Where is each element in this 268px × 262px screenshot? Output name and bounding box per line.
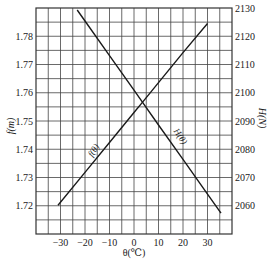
x-tick-label: 10 [154, 237, 164, 248]
y2-tick-label: 2080 [235, 144, 255, 155]
y-tick-label: 1.72 [16, 200, 34, 211]
y-tick-label: 1.77 [16, 59, 34, 70]
x-tick-label: −20 [77, 237, 93, 248]
y2-tick-label: 2100 [235, 87, 255, 98]
h-curve-label: H(θ) [171, 126, 189, 146]
left-axis-ticks: 1.721.731.741.751.761.771.78 [16, 31, 34, 212]
y-tick-label: 1.78 [16, 31, 34, 42]
y2-axis-label: H(N) [256, 107, 268, 129]
x-tick-label: 20 [178, 237, 188, 248]
y-tick-label: 1.76 [16, 87, 34, 98]
y2-tick-label: 2070 [235, 172, 255, 183]
y-axis-label: f(m) [5, 117, 17, 134]
chart-figure: 1.721.731.741.751.761.771.78 20602070208… [0, 0, 268, 262]
right-axis-ticks: 20602070208020902100211021202130 [235, 3, 255, 212]
y-tick-label: 1.75 [16, 116, 34, 127]
x-tick-label: −30 [53, 237, 69, 248]
y2-tick-label: 2130 [235, 3, 255, 14]
x-tick-label: −10 [102, 237, 118, 248]
curves [58, 10, 221, 213]
y2-tick-label: 2110 [235, 59, 255, 70]
h-theta-curve [77, 10, 221, 213]
x-axis-label: θ(℃) [123, 247, 146, 259]
x-tick-label: 30 [203, 237, 213, 248]
grid [36, 8, 232, 234]
y2-tick-label: 2060 [235, 200, 255, 211]
y2-tick-label: 2120 [235, 31, 255, 42]
y-tick-label: 1.74 [16, 144, 34, 155]
y2-tick-label: 2090 [235, 116, 255, 127]
y-tick-label: 1.73 [16, 172, 34, 183]
